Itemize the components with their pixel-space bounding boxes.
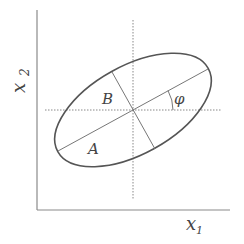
diagram-canvas: B A φ x 2 x 1 (0, 0, 244, 244)
x-axis-label: x 1 (186, 213, 203, 237)
label-angle: φ (174, 90, 185, 108)
svg-text:x: x (8, 83, 29, 93)
svg-text:2: 2 (18, 68, 32, 77)
y-axis-label: x 2 (8, 68, 32, 93)
label-semi-major: A (86, 140, 99, 158)
error-ellipse-diagram: B A φ x 2 x 1 (0, 0, 244, 244)
svg-text:1: 1 (196, 224, 203, 237)
svg-text:x: x (186, 213, 196, 234)
angle-arc (168, 91, 173, 110)
label-semi-minor: B (101, 90, 113, 108)
